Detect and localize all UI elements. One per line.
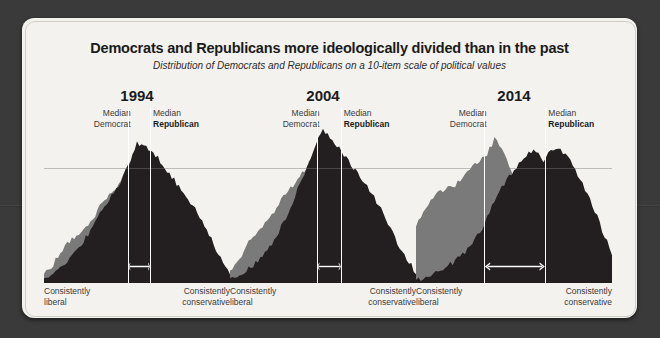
median-republican-label: Median Republican <box>153 108 230 129</box>
chart-title: Democrats and Republicans more ideologic… <box>22 40 637 56</box>
gridline <box>416 168 612 169</box>
median-gap-arrow <box>128 262 150 271</box>
axis-label-left-line1: Consistently <box>416 286 462 296</box>
axis-label-left-line1: Consistently <box>44 286 90 296</box>
chart-card: Democrats and Republicans more ideologic… <box>22 18 637 318</box>
median-gap-arrow-svg <box>317 262 341 271</box>
axis-label-right-line2: conservative <box>564 297 612 308</box>
axis-label-right-line1: Consistently <box>370 286 416 296</box>
median-democrat-label-line1: Median <box>459 108 487 118</box>
distribution-plot-1994 <box>44 127 230 283</box>
axis-label-left-line2: liberal <box>44 297 90 308</box>
median-democrat-line <box>484 108 485 283</box>
axis-label-left: Consistently liberal <box>230 286 276 307</box>
panel-1994: 1994 Median Democrat Median Republican <box>44 74 230 308</box>
distribution-plot-2014 <box>416 127 612 283</box>
median-democrat-label: Median Democrat <box>416 108 487 129</box>
axis-label-right-line2: conservative <box>368 297 416 308</box>
median-republican-label: Median Republican <box>344 108 416 129</box>
distribution-svg <box>416 127 612 283</box>
median-democrat-label-line1: Median <box>292 108 320 118</box>
gridline <box>230 168 416 169</box>
panel-2004: 2004 Median Democrat Median Republican <box>230 74 416 308</box>
axis-label-right-line1: Consistently <box>566 286 612 296</box>
gridline <box>44 168 230 169</box>
axis-label-right: Consistently conservative <box>564 286 612 307</box>
axis-label-right-line2: conservative <box>182 297 230 308</box>
chart-subtitle: Distribution of Democrats and Republican… <box>22 60 637 71</box>
panel-year-label: 1994 <box>44 87 230 104</box>
median-democrat-label: Median Democrat <box>44 108 131 129</box>
median-gap-arrow <box>317 262 341 271</box>
panel-2014: 2014 Median Democrat Median Republican <box>416 74 612 308</box>
distribution-svg <box>44 127 230 283</box>
median-gap-arrow-svg <box>484 262 546 271</box>
axis-label-left: Consistently liberal <box>44 286 90 307</box>
median-republican-label: Median Republican <box>548 108 612 129</box>
distribution-plot-2004 <box>230 127 416 283</box>
median-republican-label-line1: Median <box>344 108 372 118</box>
axis-label-left: Consistently liberal <box>416 286 462 307</box>
median-gap-arrow <box>484 262 546 271</box>
median-republican-line <box>545 108 546 283</box>
median-republican-line <box>150 108 151 283</box>
axis-label-right: Consistently conservative <box>182 286 230 307</box>
axis-label-left-line2: liberal <box>230 297 276 308</box>
median-democrat-label: Median Democrat <box>230 108 319 129</box>
distribution-svg <box>230 127 416 283</box>
axis-label-right: Consistently conservative <box>368 286 416 307</box>
median-republican-label-line1: Median <box>153 108 181 118</box>
screen-backdrop: Democrats and Republicans more ideologic… <box>0 0 660 338</box>
median-democrat-label-line1: Median <box>103 108 131 118</box>
axis-label-right-line1: Consistently <box>184 286 230 296</box>
median-republican-line <box>341 108 342 283</box>
axis-label-left-line2: liberal <box>416 297 462 308</box>
median-democrat-line <box>317 108 318 283</box>
axis-label-left-line1: Consistently <box>230 286 276 296</box>
panel-year-label: 2014 <box>416 87 612 104</box>
median-democrat-line <box>128 108 129 283</box>
median-gap-arrow-svg <box>128 262 150 271</box>
median-republican-label-line1: Median <box>548 108 576 118</box>
panel-year-label: 2004 <box>230 87 416 104</box>
